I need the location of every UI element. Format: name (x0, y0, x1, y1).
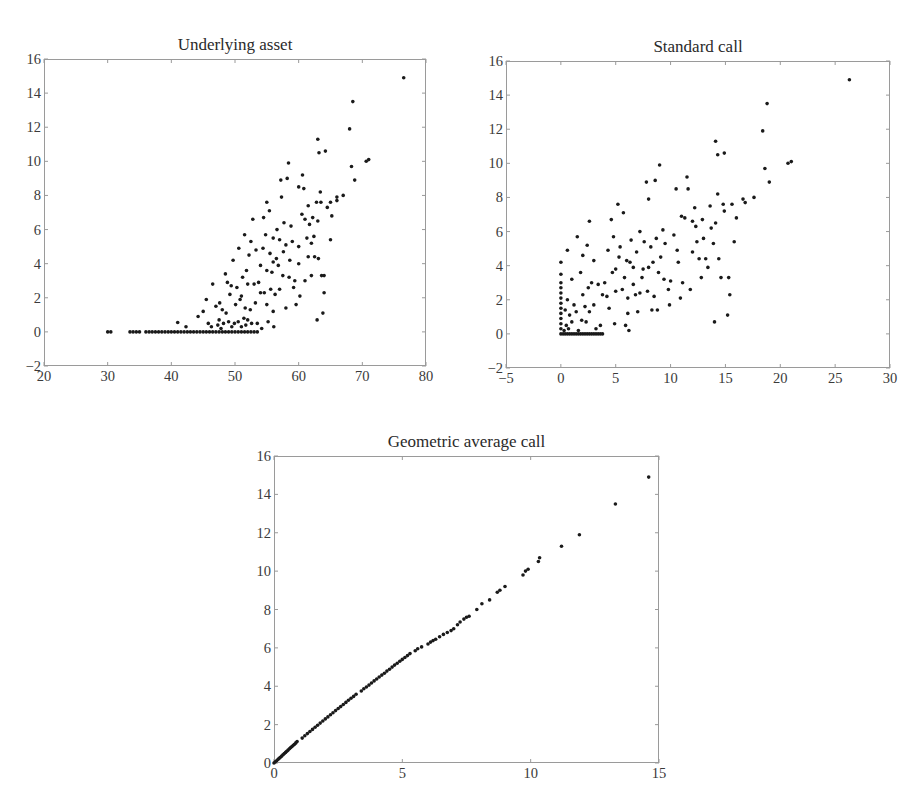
data-point (675, 249, 679, 253)
y-tick-label: 2 (264, 716, 274, 733)
data-point (580, 318, 584, 322)
data-point (786, 162, 790, 166)
x-tick-label: 5 (399, 765, 406, 782)
data-point (498, 589, 502, 593)
data-point (621, 288, 625, 292)
data-point (679, 296, 683, 300)
data-point (109, 330, 113, 334)
data-point (238, 298, 242, 302)
chart-panel-standard-call: Standard call −5051015202530−20246810121… (506, 61, 890, 368)
data-point (256, 330, 260, 334)
data-point (628, 261, 632, 265)
data-point (229, 284, 233, 288)
data-point (568, 313, 572, 317)
data-point (674, 187, 678, 191)
data-point (257, 281, 261, 285)
data-point (329, 238, 333, 242)
data-point (348, 127, 352, 131)
data-point (350, 165, 354, 169)
data-point (224, 272, 228, 276)
data-point (302, 187, 306, 191)
data-point (560, 544, 564, 548)
y-tick-label: 8 (264, 601, 274, 618)
data-point (667, 288, 671, 292)
data-point (590, 281, 594, 285)
data-point (712, 242, 716, 246)
data-point (672, 233, 676, 237)
data-point (260, 327, 264, 331)
scatter-points (272, 475, 650, 765)
data-point (576, 235, 580, 239)
data-point (719, 276, 723, 280)
axes-frame (45, 60, 426, 366)
data-point (442, 633, 446, 637)
x-tick-label: 40 (164, 368, 179, 385)
data-point (249, 308, 253, 312)
data-point (236, 330, 240, 334)
data-point (625, 259, 629, 263)
data-point (559, 291, 563, 295)
data-point (594, 327, 598, 331)
data-point (559, 317, 563, 321)
data-point (596, 283, 600, 287)
data-point (221, 308, 225, 312)
data-point (446, 631, 450, 635)
data-point (622, 211, 626, 215)
data-point (726, 313, 730, 317)
data-point (583, 305, 587, 309)
data-point (265, 201, 269, 205)
y-tick-label: 6 (496, 223, 506, 240)
data-point (268, 252, 272, 256)
data-point (294, 303, 298, 307)
data-point (765, 102, 769, 106)
data-point (272, 325, 276, 329)
data-point (240, 294, 244, 298)
data-point (658, 163, 662, 167)
data-point (562, 329, 566, 333)
data-point (537, 560, 541, 564)
data-point (300, 212, 304, 216)
data-point (623, 276, 627, 280)
data-point (271, 260, 275, 264)
data-point (280, 195, 284, 199)
data-point (686, 187, 690, 191)
data-point (241, 276, 245, 280)
y-tick-label: 8 (496, 189, 506, 206)
data-point (768, 180, 772, 184)
data-point (269, 288, 273, 292)
data-point (341, 194, 345, 198)
data-point (456, 623, 460, 627)
data-point (249, 240, 253, 244)
data-point (656, 308, 660, 312)
data-point (353, 178, 357, 182)
data-point (224, 311, 228, 315)
data-point (201, 330, 205, 334)
data-point (275, 228, 279, 232)
data-point (416, 647, 420, 651)
data-point (626, 312, 630, 316)
data-point (467, 614, 471, 618)
data-point (640, 276, 644, 280)
data-point (313, 255, 317, 259)
data-point (599, 324, 603, 328)
data-point (216, 323, 220, 327)
data-point (207, 322, 211, 326)
data-point (228, 293, 232, 297)
data-point (247, 253, 251, 257)
x-tick-label: 15 (652, 765, 667, 782)
data-point (642, 240, 646, 244)
data-point (732, 240, 736, 244)
data-point (727, 276, 731, 280)
data-point (714, 139, 718, 143)
data-point (312, 235, 316, 239)
data-point (205, 298, 209, 302)
data-point (317, 151, 321, 155)
data-point (488, 598, 492, 602)
data-point (246, 318, 250, 322)
data-point (680, 214, 684, 218)
data-point (752, 196, 756, 200)
data-point (275, 257, 279, 261)
data-point (790, 160, 794, 164)
data-point (702, 237, 706, 241)
data-point (521, 573, 525, 577)
